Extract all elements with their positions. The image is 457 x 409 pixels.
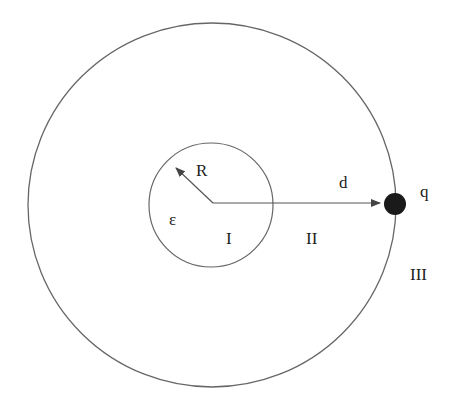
label-region-3: III: [410, 266, 427, 283]
label-distance: d: [339, 174, 348, 191]
outer-sphere: [28, 23, 396, 387]
label-radius: R: [196, 162, 207, 179]
dielectric-sphere: [149, 143, 273, 267]
label-charge: q: [420, 183, 429, 200]
label-permittivity: ε: [169, 211, 176, 228]
radius-arrow: [176, 168, 213, 203]
point-charge: [384, 193, 406, 215]
label-region-2: II: [306, 230, 317, 247]
diagram-svg: [0, 0, 457, 409]
label-region-1: I: [226, 230, 232, 247]
diagram-canvas: R ε I II III d q: [0, 0, 457, 409]
